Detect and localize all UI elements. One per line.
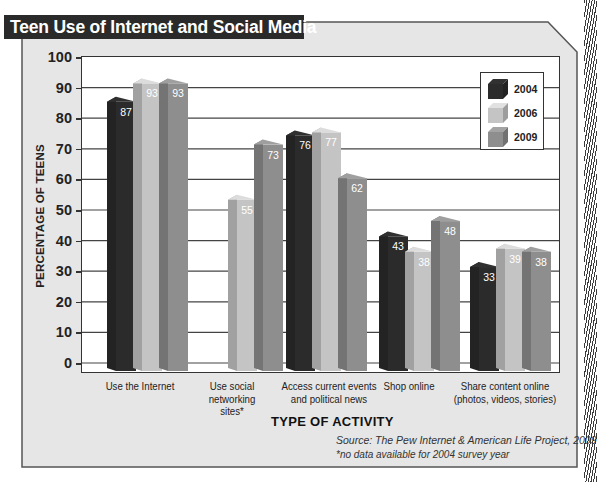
- x-category-label: Use the Internet: [106, 380, 175, 393]
- x-category-line: Use social: [209, 380, 256, 393]
- bar-2009-3: 48: [431, 216, 460, 371]
- bar-value-label: 55: [241, 204, 253, 216]
- legend-swatch-cube-icon: [487, 126, 509, 148]
- x-category-line: Shop online: [383, 380, 434, 393]
- legend-label: 2006: [514, 107, 537, 119]
- legend: 200420062009: [480, 72, 544, 150]
- x-category-line: sites*: [209, 405, 256, 418]
- legend-swatch-cube-icon: [487, 78, 509, 100]
- x-category-line: Use the Internet: [106, 380, 175, 393]
- bar-2009-4: 38: [522, 247, 551, 371]
- bar-value-label: 33: [483, 271, 495, 283]
- bar-2006-4: 39: [496, 244, 525, 371]
- bar-2004-0: 87: [107, 97, 136, 371]
- bar-value-label: 73: [267, 149, 279, 161]
- source-note: Source: The Pew Internet & American Life…: [336, 434, 597, 446]
- legend-label: 2004: [514, 83, 537, 95]
- x-axis-label: TYPE OF ACTIVITY: [271, 414, 394, 429]
- bar-value-label: 38: [535, 256, 547, 268]
- bar-value-label: 93: [146, 87, 158, 99]
- bar-value-label: 76: [299, 139, 311, 151]
- bar-value-label: 39: [509, 253, 521, 265]
- x-category-line: networking: [209, 393, 256, 406]
- legend-item-2006: 2006: [487, 102, 543, 124]
- bar-2004-2: 76: [286, 130, 315, 371]
- bar-2004-3: 43: [379, 231, 408, 371]
- legend-swatch-cube-icon: [487, 102, 509, 124]
- bar-2004-4: 33: [470, 262, 499, 371]
- footnote: *no data available for 2004 survey year: [336, 449, 509, 460]
- bar-value-label: 87: [120, 106, 132, 118]
- bar-value-label: 43: [392, 240, 404, 252]
- bar-2006-3: 38: [405, 247, 434, 371]
- bar-2006-1: 55: [228, 195, 257, 371]
- x-category-line: Share content online: [454, 380, 557, 393]
- bar-value-label: 77: [325, 136, 337, 148]
- x-category-line: and political news: [281, 393, 376, 406]
- x-category-label: Access current eventsand political news: [281, 380, 376, 405]
- x-category-label: Share content online(photos, videos, sto…: [454, 380, 557, 405]
- bar-value-label: 38: [418, 256, 430, 268]
- bar-2006-2: 77: [312, 127, 341, 371]
- bar-2006-0: 93: [133, 78, 162, 371]
- legend-item-2004: 2004: [487, 78, 543, 100]
- bar-2009-0: 93: [159, 78, 188, 371]
- legend-item-2009: 2009: [487, 126, 543, 148]
- bar-value-label: 62: [351, 182, 363, 194]
- bar-2009-2: 62: [338, 173, 367, 371]
- legend-label: 2009: [514, 131, 537, 143]
- x-category-label: Shop online: [383, 380, 434, 393]
- bar-value-label: 93: [172, 87, 184, 99]
- x-category-line: (photos, videos, stories): [454, 393, 557, 406]
- x-category-line: Access current events: [281, 380, 376, 393]
- x-category-label: Use socialnetworkingsites*: [209, 380, 256, 418]
- bar-2009-1: 73: [254, 140, 283, 371]
- bar-value-label: 48: [444, 225, 456, 237]
